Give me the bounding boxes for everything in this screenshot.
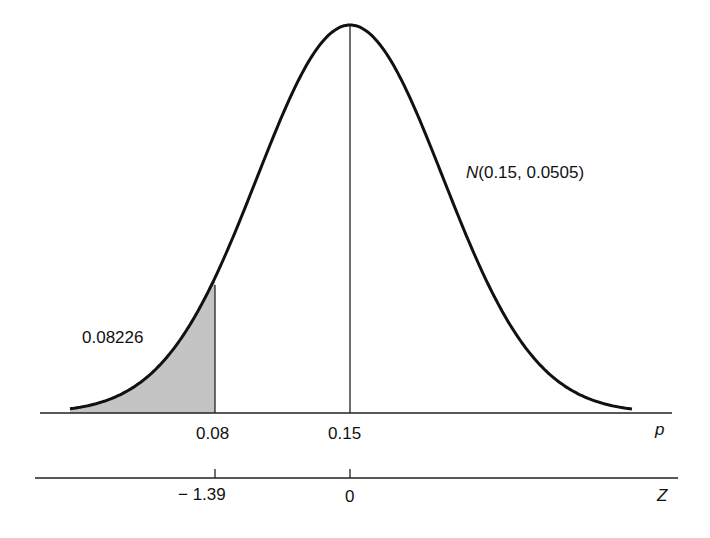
- distribution-params: (0.15, 0.0505): [478, 163, 584, 182]
- area-label: 0.08226: [82, 328, 143, 348]
- normal-curve: [70, 25, 632, 409]
- p-tick-label-0.08: 0.08: [196, 424, 229, 444]
- normal-curve-chart: [0, 0, 710, 538]
- z-tick-label-neg: − 1.39: [178, 485, 226, 505]
- distribution-label: N(0.15, 0.0505): [466, 163, 584, 183]
- p-tick-label-0.15: 0.15: [328, 424, 361, 444]
- p-axis-label: p: [655, 420, 664, 440]
- distribution-symbol: N: [466, 163, 478, 182]
- z-tick-label-zero: 0: [345, 487, 354, 507]
- z-axis-label: Z: [657, 486, 667, 506]
